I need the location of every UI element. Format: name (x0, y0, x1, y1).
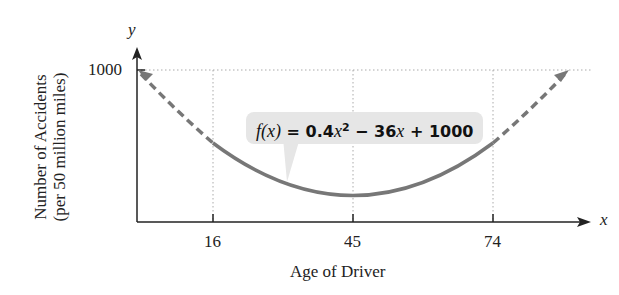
callout-pointer (283, 138, 300, 182)
x-axis-label: Age of Driver (290, 262, 385, 282)
eq-part3: + 1000 (404, 122, 473, 141)
curve-dashed-right (493, 74, 565, 143)
equation-label: f(x) = 0.4x2 − 36x + 1000 (246, 112, 483, 144)
y-axis-symbol: y (128, 20, 136, 40)
eq-part2: − 36 (350, 122, 397, 141)
grid-lines (137, 70, 591, 222)
y-label-line2: (per 50 million miles) (50, 37, 69, 257)
eq-paren-x: (x) (261, 121, 281, 141)
x-axis-symbol: x (600, 210, 608, 230)
y-axis-label: Number of Accidents (per 50 million mile… (31, 37, 69, 257)
curve-dashed-left (141, 74, 213, 143)
x-tick-45: 45 (344, 232, 361, 252)
chart-canvas (0, 0, 619, 295)
x-tick-74: 74 (484, 232, 501, 252)
eq-exponent: 2 (342, 121, 350, 134)
x-tick-16: 16 (204, 232, 221, 252)
y-label-line1: Number of Accidents (31, 37, 50, 257)
curve-arrow-right-icon (554, 70, 569, 82)
eq-part1: = 0.4 (281, 122, 334, 141)
y-tick-1000: 1000 (88, 60, 122, 80)
eq-x: x (334, 121, 342, 141)
